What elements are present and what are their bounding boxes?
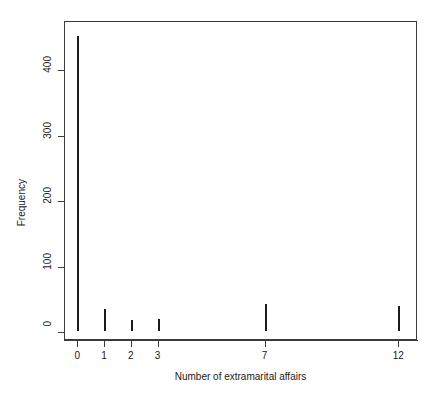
- x-axis-line: [64, 340, 418, 341]
- x-tick-label-3: 3: [143, 350, 173, 362]
- y-tick-100: [58, 267, 64, 268]
- x-tick-2: [131, 341, 132, 347]
- plot-frame: [64, 21, 417, 340]
- x-tick-label-0: 0: [62, 350, 92, 362]
- y-tick-label-100: 100: [0, 253, 54, 273]
- x-tick-label-12: 12: [383, 350, 413, 362]
- x-tick-7: [265, 341, 266, 347]
- bar-12: [398, 306, 400, 331]
- y-tick-300: [58, 136, 64, 137]
- x-tick-12: [398, 341, 399, 347]
- y-tick-0: [58, 332, 64, 333]
- bar-1: [104, 309, 106, 331]
- y-tick-label-text: 300: [42, 122, 54, 139]
- y-axis-line: [64, 21, 65, 341]
- y-tick-label-text: 0: [42, 321, 54, 327]
- y-tick-200: [58, 201, 64, 202]
- chart-canvas: Number of extramarital affairs Frequency…: [0, 0, 440, 406]
- y-tick-label-text: 200: [42, 187, 54, 204]
- x-tick-3: [158, 341, 159, 347]
- x-tick-label-1: 1: [89, 350, 119, 362]
- y-tick-label-400: 400: [0, 56, 54, 76]
- x-tick-0: [77, 341, 78, 347]
- bar-3: [158, 319, 160, 331]
- y-tick-label-text: 100: [42, 253, 54, 270]
- y-tick-label-text: 400: [42, 56, 54, 73]
- x-tick-label-7: 7: [250, 350, 280, 362]
- x-tick-1: [104, 341, 105, 347]
- y-tick-label-300: 300: [0, 122, 54, 142]
- y-tick-label-200: 200: [0, 187, 54, 207]
- y-tick-label-0: 0: [0, 318, 54, 330]
- x-tick-label-2: 2: [116, 350, 146, 362]
- bar-2: [131, 320, 133, 331]
- y-tick-400: [58, 70, 64, 71]
- x-axis-title: Number of extramarital affairs: [64, 371, 417, 382]
- bar-0: [77, 36, 79, 331]
- bar-7: [265, 304, 267, 332]
